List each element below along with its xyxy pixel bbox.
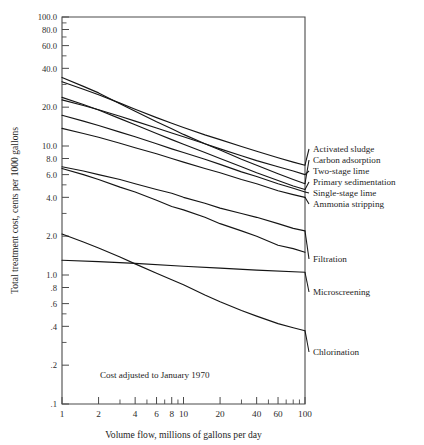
x-tick-label: 1 bbox=[60, 409, 65, 419]
y-tick-label: .4 bbox=[51, 322, 58, 332]
figure-log-log-treatment-cost: Activated sludgeCarbon adsorptionTwo-sta… bbox=[0, 0, 424, 445]
series-label-two-stage-lime: Two-stage lime bbox=[313, 166, 369, 176]
x-tick-label: 60 bbox=[273, 409, 283, 419]
x-tick-label: 6 bbox=[154, 409, 159, 419]
curve-primary-sedimentation bbox=[62, 97, 305, 189]
leader-line-5 bbox=[305, 197, 309, 204]
leader-line-7 bbox=[305, 272, 309, 292]
series-label-activated-sludge: Activated sludge bbox=[313, 144, 374, 154]
y-tick-label: 100.0 bbox=[38, 12, 57, 22]
curve-ammonia-stripping bbox=[62, 128, 305, 197]
y-tick-label: 6.0 bbox=[46, 170, 57, 180]
x-tick-label: 4 bbox=[133, 409, 138, 419]
x-tick-label: 2 bbox=[96, 409, 101, 419]
series-label-chlorination: Chlorination bbox=[313, 347, 359, 357]
x-tick-label: 10 bbox=[179, 409, 189, 419]
series-label-primary-sedimentation: Primary sedimentation bbox=[313, 177, 396, 187]
y-tick-label: 8.0 bbox=[46, 154, 57, 164]
y-tick-label: .6 bbox=[51, 299, 58, 309]
series-label-filtration: Filtration bbox=[313, 254, 347, 264]
y-tick-label: 10.0 bbox=[42, 141, 57, 151]
y-tick-label: 4.0 bbox=[46, 193, 57, 203]
curve-microscreening-flat bbox=[62, 260, 305, 272]
series-labels-group: Activated sludgeCarbon adsorptionTwo-sta… bbox=[313, 144, 396, 357]
leaders-group bbox=[305, 149, 309, 352]
y-tick-label: 1.0 bbox=[46, 270, 57, 280]
plot-annotation-0: Cost adjusted to January 1970 bbox=[100, 370, 210, 380]
chart-svg: Activated sludgeCarbon adsorptionTwo-sta… bbox=[0, 0, 424, 445]
axis-text-group: 100.080.060.040.020.010.08.06.04.02.01.0… bbox=[9, 12, 312, 440]
curve-chlorination bbox=[62, 234, 305, 331]
y-tick-label: .1 bbox=[51, 399, 57, 409]
curve-filtration bbox=[62, 167, 305, 231]
leader-line-4 bbox=[305, 192, 309, 193]
leader-line-8 bbox=[305, 331, 309, 352]
x-tick-label: 20 bbox=[215, 409, 225, 419]
plot-frame bbox=[62, 17, 305, 404]
series-label-single-stage-lime: Single-stage lime bbox=[313, 188, 376, 198]
curve-single-stage-lime bbox=[62, 115, 305, 192]
curve-carbon-adsorption bbox=[62, 77, 305, 183]
x-axis-title: Volume flow, millions of gallons per day bbox=[105, 429, 262, 440]
y-tick-label: .8 bbox=[51, 283, 57, 293]
y-tick-label: 40.0 bbox=[42, 64, 57, 74]
series-label-carbon-adsorption: Carbon adsorption bbox=[313, 155, 381, 165]
leader-line-6 bbox=[305, 231, 309, 259]
axes-group bbox=[62, 17, 305, 404]
y-tick-label: 80.0 bbox=[42, 25, 57, 35]
y-tick-label: 20.0 bbox=[42, 102, 57, 112]
y-axis-title: Total treatment cost, cents per 1000 gal… bbox=[9, 127, 20, 294]
x-tick-label: 40 bbox=[252, 409, 262, 419]
series-label-microscreening: Microscreening bbox=[313, 287, 371, 297]
y-tick-label: 60.0 bbox=[42, 41, 57, 51]
x-tick-label: 100 bbox=[298, 409, 312, 419]
x-tick-label: 8 bbox=[169, 409, 174, 419]
y-tick-label: 2.0 bbox=[46, 231, 57, 241]
series-label-ammonia-stripping: Ammonia stripping bbox=[313, 199, 384, 209]
y-tick-label: .2 bbox=[51, 360, 57, 370]
curves-group bbox=[62, 77, 305, 330]
